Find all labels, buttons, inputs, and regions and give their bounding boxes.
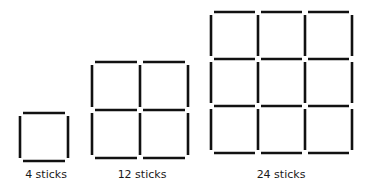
label-24-sticks: 24 sticks: [257, 168, 306, 181]
matchstick-diagram: [0, 0, 375, 189]
label-12-sticks: 12 sticks: [118, 168, 167, 181]
square-grid-3x3: [211, 12, 352, 153]
label-4-sticks: 4 sticks: [25, 168, 67, 181]
square-grid-2x2: [92, 62, 188, 158]
square-grid-1x1: [20, 113, 68, 161]
